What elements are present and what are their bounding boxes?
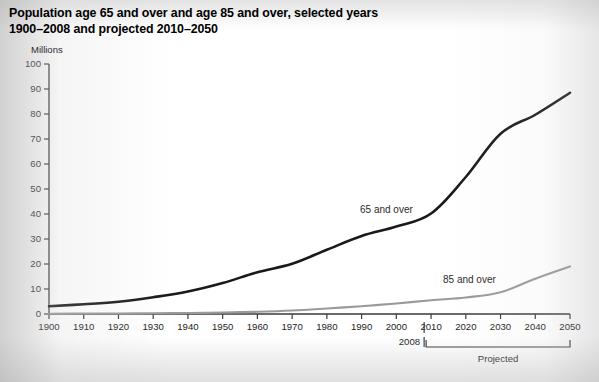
title-line-1: Population age 65 and over and age 85 an… <box>9 6 569 22</box>
series-label-85-and-over: 85 and over <box>443 274 496 285</box>
x-axis-tick-label: 1910 <box>73 321 94 332</box>
marker-2008-label: 2008 <box>399 336 420 347</box>
y-axis-tick-label: 0 <box>36 308 41 319</box>
projected-label: Projected <box>478 353 519 364</box>
x-axis-tick-label: 2030 <box>490 321 511 332</box>
x-axis-tick-label: 1960 <box>247 321 268 332</box>
page-title: Population age 65 and over and age 85 an… <box>9 6 569 37</box>
y-axis-tick-label: 40 <box>30 208 41 219</box>
y-axis-unit-label: Millions <box>31 44 63 55</box>
x-axis-tick-label: 1900 <box>38 321 59 332</box>
x-axis-tick-label: 1950 <box>212 321 233 332</box>
x-axis-tick-label: 1980 <box>316 321 337 332</box>
x-axis-tick-label: 2020 <box>455 321 476 332</box>
y-axis-tick-label: 90 <box>30 83 41 94</box>
x-axis-tick-label: 1940 <box>177 321 198 332</box>
y-axis-tick-label: 60 <box>30 158 41 169</box>
y-axis-tick-label: 30 <box>30 233 41 244</box>
y-axis-tick-label: 20 <box>30 258 41 269</box>
x-axis-tick-label: 1990 <box>351 321 372 332</box>
x-axis-tick-label: 2040 <box>525 321 546 332</box>
projected-bracket <box>426 340 570 347</box>
title-line-2: 1900–2008 and projected 2010–2050 <box>9 22 569 38</box>
x-axis-tick-label: 2000 <box>386 321 407 332</box>
y-axis-tick-label: 100 <box>25 58 41 69</box>
y-axis-tick-label: 10 <box>30 283 41 294</box>
series-label-65-and-over: 65 and over <box>360 204 413 215</box>
x-axis-tick-label: 2050 <box>559 321 580 332</box>
x-axis-tick-label: 1970 <box>281 321 302 332</box>
y-axis-tick-label: 80 <box>30 108 41 119</box>
chart-svg: 0102030405060708090100190019101920193019… <box>0 0 599 382</box>
plot-area: 0102030405060708090100190019101920193019… <box>0 0 599 382</box>
x-axis-tick-label: 1920 <box>108 321 129 332</box>
y-axis-tick-label: 70 <box>30 133 41 144</box>
y-axis-tick-label: 50 <box>30 183 41 194</box>
chart-figure: Population age 65 and over and age 85 an… <box>0 0 599 382</box>
x-axis-tick-label: 1930 <box>143 321 164 332</box>
